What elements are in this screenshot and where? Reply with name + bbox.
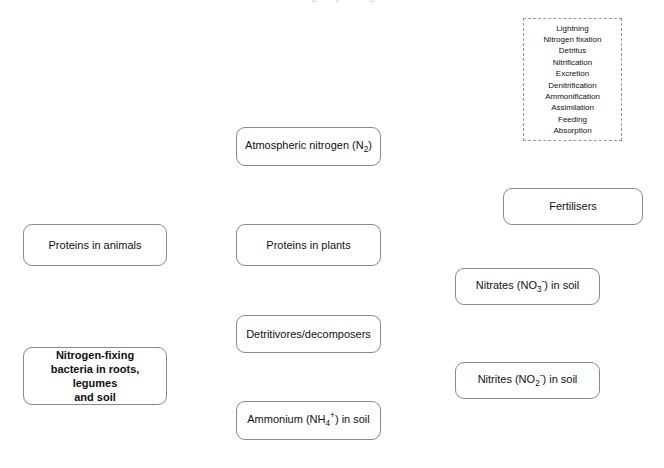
word-bank-item: Absorption [553, 125, 591, 136]
node-label: Nitrogen-fixing bacteria in roots, legum… [30, 348, 160, 404]
word-bank-item: Lightning [556, 23, 588, 34]
nitrogen-cycle-diagram: The nitrogen cycle diagram Lightning Nit… [0, 0, 664, 468]
word-bank-item: Ammonification [545, 91, 600, 102]
node-label-line-2: bacteria in roots, legumes [51, 363, 140, 389]
page-title-sliver: The nitrogen cycle diagram [0, 0, 664, 2]
word-bank-item: Nitrogen fixation [544, 34, 602, 45]
node-nitrates-in-soil: Nitrates (NO3-) in soil [455, 268, 600, 305]
node-label: Nitrites (NO2-) in soil [478, 371, 578, 389]
node-detritivores-decomposers: Detritivores/decomposers [236, 315, 381, 353]
node-label: Proteins in animals [49, 238, 142, 252]
node-atmospheric-nitrogen: Atmospheric nitrogen (N2) [236, 127, 381, 166]
subscript: 4 [325, 419, 330, 428]
node-nitrites-in-soil: Nitrites (NO2-) in soil [455, 362, 600, 399]
node-label: Detritivores/decomposers [246, 327, 371, 341]
node-fertilisers: Fertilisers [503, 188, 643, 225]
node-nitrogen-fixing-bacteria: Nitrogen-fixing bacteria in roots, legum… [23, 347, 167, 405]
node-proteins-in-animals: Proteins in animals [23, 224, 167, 266]
node-label: Proteins in plants [266, 238, 350, 252]
node-label: Ammonium (NH4+) in soil [247, 411, 370, 429]
node-label-line-1: Nitrogen-fixing [56, 349, 134, 361]
word-bank-item: Feeding [558, 114, 587, 125]
node-ammonium-in-soil: Ammonium (NH4+) in soil [236, 401, 381, 440]
node-proteins-in-plants: Proteins in plants [236, 224, 381, 266]
word-bank-box: Lightning Nitrogen fixation Detritus Nit… [523, 18, 622, 141]
subscript: 2 [535, 379, 540, 388]
node-label: Fertilisers [549, 199, 597, 213]
subscript: 3 [537, 285, 542, 294]
node-label-line-3: and soil [74, 391, 116, 403]
word-bank-item: Assimilation [551, 102, 594, 113]
node-label: Nitrates (NO3-) in soil [476, 277, 579, 295]
word-bank-item: Detritus [559, 45, 587, 56]
node-label: Atmospheric nitrogen (N2) [245, 138, 372, 156]
word-bank-item: Excretion [556, 68, 589, 79]
word-bank-item: Denitrification [548, 80, 596, 91]
word-bank-item: Nitrification [553, 57, 593, 68]
